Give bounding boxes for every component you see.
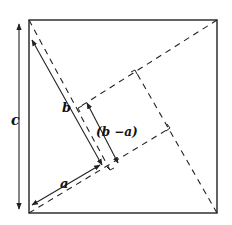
- label-c: c: [11, 112, 20, 128]
- dashed-lines: [29, 20, 217, 213]
- label-b: b: [62, 100, 71, 115]
- label-b-minus-a: (b −a): [96, 125, 138, 139]
- outer-square: [29, 20, 217, 213]
- pythagorean-diagram: c b (b −a) a: [0, 0, 232, 225]
- label-a: a: [60, 176, 68, 191]
- right-angle-marks: [78, 70, 170, 170]
